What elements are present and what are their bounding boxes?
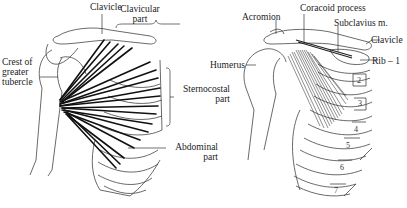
- label-sternocostal-line1: Sternocostal: [172, 84, 230, 94]
- rib-number-6: 6: [340, 163, 344, 172]
- label-coracoid-process: Coracoid process: [300, 3, 366, 13]
- label-abdominal-line1: Abdominal: [168, 142, 218, 152]
- label-clavicle-right: Clavicle: [371, 35, 403, 45]
- rib-number-7: 7: [334, 186, 338, 195]
- label-clavicle-left: Clavicle: [90, 2, 122, 12]
- rib-number-3: 3: [358, 99, 362, 108]
- rib-number-4: 4: [354, 125, 358, 134]
- label-crest-line3: tubercle: [2, 77, 33, 87]
- label-abdominal-line2: part: [168, 152, 218, 162]
- label-abdominal-part: Abdominal part: [168, 142, 218, 162]
- label-clavicular-part-line2: part: [118, 14, 162, 24]
- label-clavicular-part-line1: Clavicular: [118, 4, 162, 14]
- label-rib-1: Rib – 1: [372, 56, 400, 66]
- pectoralis-major-drawing: 2 3 4 5 6 7: [0, 0, 407, 208]
- label-clavicular-part: Clavicular part: [118, 4, 162, 24]
- label-sternocostal-line2: part: [172, 94, 230, 104]
- label-crest-greater-tubercle: Crest of greater tubercle: [2, 57, 33, 87]
- label-sternocostal-part: Sternocostal part: [172, 84, 230, 104]
- label-acromion: Acromion: [242, 12, 281, 22]
- rib-number-5: 5: [346, 141, 350, 150]
- label-subclavius: Subclavius m.: [334, 18, 388, 28]
- label-crest-line2: greater: [2, 67, 33, 77]
- rib-number-2: 2: [357, 76, 361, 85]
- label-crest-line1: Crest of: [2, 57, 33, 67]
- label-humerus: Humerus: [210, 60, 245, 70]
